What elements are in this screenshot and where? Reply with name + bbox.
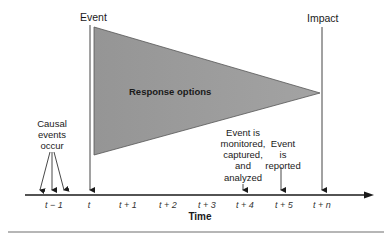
time-axis-arrowhead-icon [364,192,374,199]
svg-text:occur: occur [40,140,63,151]
response-options-label: Response options [129,86,211,97]
causal-events-label: Causal events occur [37,118,67,151]
svg-text:Event: Event [271,138,296,149]
causal-arrows [40,152,64,190]
svg-text:Causal: Causal [37,118,67,129]
event-label: Event [80,11,107,23]
tick-labels: t − 1 t t + 1 t + 2 t + 3 t + 4 t + 5 t … [45,200,331,210]
event-timeline-diagram: Event Impact Response options Causal eve… [0,0,391,234]
time-axis-label: Time [188,211,212,222]
svg-text:captured,: captured, [223,149,263,160]
tick-t-plus-2: t + 2 [159,200,177,210]
tick-t: t [88,200,91,210]
tick-t-plus-4: t + 4 [236,200,254,210]
svg-text:monitored,: monitored, [221,138,266,149]
tick-t-minus-1: t − 1 [45,200,63,210]
svg-text:and: and [235,160,251,171]
tick-t-plus-n: t + n [313,200,331,210]
svg-text:reported: reported [265,160,300,171]
svg-text:events: events [38,129,66,140]
tick-t-plus-5: t + 5 [275,200,294,210]
tick-t-plus-1: t + 1 [119,200,137,210]
tick-t-plus-3: t + 3 [198,200,216,210]
impact-label: Impact [307,12,339,24]
svg-text:Event is: Event is [226,127,260,138]
svg-text:is: is [280,149,287,160]
monitored-label: Event is monitored, captured, and analyz… [221,127,266,183]
reported-label: Event is reported [265,138,300,171]
svg-text:analyzed: analyzed [224,172,262,183]
